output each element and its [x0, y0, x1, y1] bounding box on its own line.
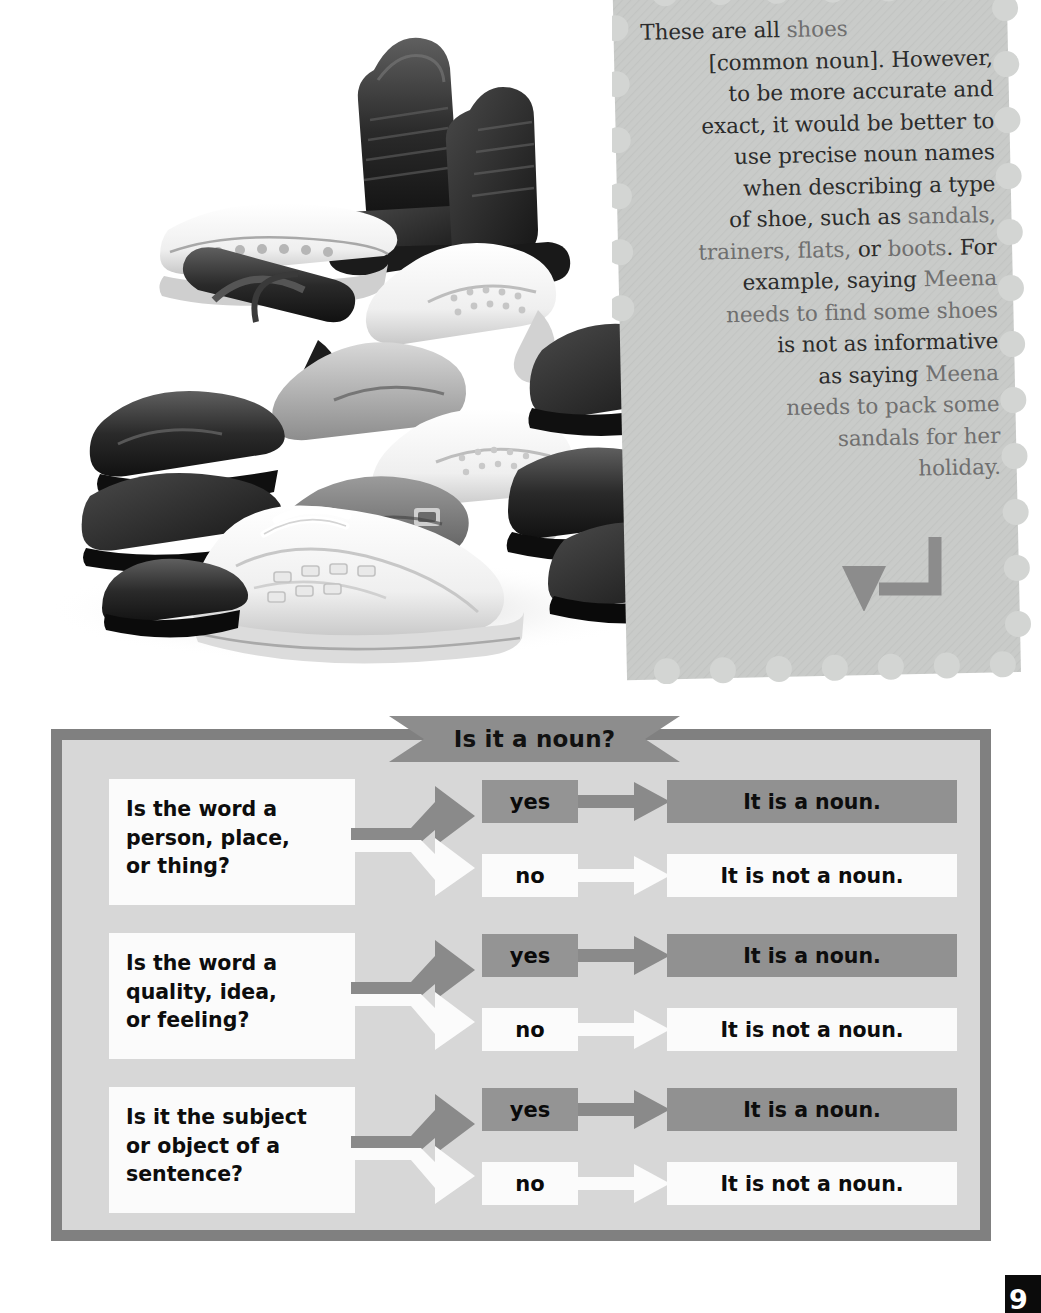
branch-arrows-icon — [351, 776, 479, 910]
flowchart-panel: Is it a noun? Is the word a person, plac… — [51, 729, 991, 1241]
flowchart-row: Is it the subject or object of a sentenc… — [62, 1076, 980, 1230]
result-box-positive[interactable]: It is a noun. — [667, 1088, 957, 1131]
question-line: Is the word a — [126, 795, 341, 824]
decision-box-no[interactable]: no — [482, 1008, 578, 1051]
note-text-run: when describing a type — [743, 170, 996, 200]
result-label: It is not a noun. — [720, 864, 903, 888]
note-text-run: needs to find some shoes — [726, 296, 998, 326]
result-box-negative[interactable]: It is not a noun. — [667, 1008, 957, 1051]
arrow-right-icon — [578, 1088, 672, 1131]
curved-left-arrow-icon — [817, 531, 947, 611]
flowchart-row: Is the word a quality, idea, or feeling?… — [62, 922, 980, 1076]
flowchart-rows: Is the word a person, place, or thing? y… — [62, 768, 980, 1230]
question-box[interactable]: Is the word a person, place, or thing? — [109, 779, 355, 905]
note-text-run: These are all — [640, 17, 787, 45]
question-line: person, place, — [126, 824, 341, 853]
note-text-run: [common noun]. However, — [708, 44, 993, 74]
branch-arrows-icon — [351, 1084, 479, 1218]
flowchart-row: Is the word a person, place, or thing? y… — [62, 768, 980, 922]
page-root: These are all shoes[common noun]. Howeve… — [0, 0, 1041, 1313]
note-text-run: . For — [946, 233, 997, 259]
note-text-run: is not as informative — [777, 328, 999, 357]
result-box-positive[interactable]: It is a noun. — [667, 934, 957, 977]
branch-arrows-icon — [351, 930, 479, 1064]
result-label: It is not a noun. — [720, 1018, 903, 1042]
note-text-run: holiday. — [918, 454, 1001, 481]
question-line: Is it the subject — [126, 1103, 341, 1132]
note-text-run: example, saying — [742, 266, 923, 294]
decision-label: yes — [510, 1098, 550, 1122]
question-line: or object of a — [126, 1132, 341, 1161]
arrow-right-icon — [578, 1008, 672, 1051]
question-line: quality, idea, — [126, 978, 341, 1007]
note-text-run: Meena — [923, 265, 997, 291]
note-text-run: or — [858, 236, 888, 262]
question-line: or thing? — [126, 852, 341, 881]
arrow-right-icon — [578, 780, 672, 823]
note-text-run: Meena — [925, 359, 999, 385]
note-body-text: These are all shoes[common noun]. Howeve… — [640, 10, 1001, 489]
result-label: It is a noun. — [743, 790, 881, 814]
arrow-right-icon — [578, 934, 672, 977]
page-number-badge: 9 — [1005, 1275, 1041, 1313]
note-text-run: sandals, — [907, 202, 996, 229]
question-line: or feeling? — [126, 1006, 341, 1035]
note-text-run: sandals for her — [838, 422, 1001, 450]
note-text-run: of shoe, such as — [729, 204, 908, 232]
result-label: It is a noun. — [743, 1098, 881, 1122]
arrow-right-icon — [578, 1162, 672, 1205]
result-box-positive[interactable]: It is a noun. — [667, 780, 957, 823]
decision-box-yes[interactable]: yes — [482, 934, 578, 977]
note-text-run: as saying — [818, 361, 925, 388]
arrow-right-icon — [578, 854, 672, 897]
decision-box-yes[interactable]: yes — [482, 780, 578, 823]
flowchart-interior: Is it a noun? Is the word a person, plac… — [62, 740, 980, 1230]
note-text-run: use precise noun names — [734, 139, 995, 169]
decision-label: no — [515, 1172, 544, 1196]
decision-box-no[interactable]: no — [482, 1162, 578, 1205]
note-text-run: trainers, flats, — [698, 236, 858, 264]
note-text-run: boots — [887, 234, 946, 260]
decision-label: yes — [510, 944, 550, 968]
question-box[interactable]: Is it the subject or object of a sentenc… — [109, 1087, 355, 1213]
shoes-pile-photo — [18, 0, 708, 680]
flowchart-title-banner: Is it a noun? — [389, 716, 680, 762]
decision-label: no — [515, 864, 544, 888]
note-line: holiday. — [649, 451, 1002, 489]
result-label: It is not a noun. — [720, 1172, 903, 1196]
sticky-note: These are all shoes[common noun]. Howeve… — [612, 0, 1032, 684]
decision-label: no — [515, 1018, 544, 1042]
note-text-run: needs to pack some — [786, 391, 1000, 420]
decision-label: yes — [510, 790, 550, 814]
decision-box-no[interactable]: no — [482, 854, 578, 897]
result-box-negative[interactable]: It is not a noun. — [667, 854, 957, 897]
note-text-run: shoes — [786, 16, 848, 42]
question-line: Is the word a — [126, 949, 341, 978]
note-text-run: exact, it would be better to — [701, 107, 994, 138]
result-label: It is a noun. — [743, 944, 881, 968]
decision-box-yes[interactable]: yes — [482, 1088, 578, 1131]
page-number: 9 — [1009, 1285, 1028, 1313]
note-text-run: to be more accurate and — [728, 76, 994, 106]
result-box-negative[interactable]: It is not a noun. — [667, 1162, 957, 1205]
question-line: sentence? — [126, 1160, 341, 1189]
question-box[interactable]: Is the word a quality, idea, or feeling? — [109, 933, 355, 1059]
flowchart-title: Is it a noun? — [454, 726, 616, 752]
